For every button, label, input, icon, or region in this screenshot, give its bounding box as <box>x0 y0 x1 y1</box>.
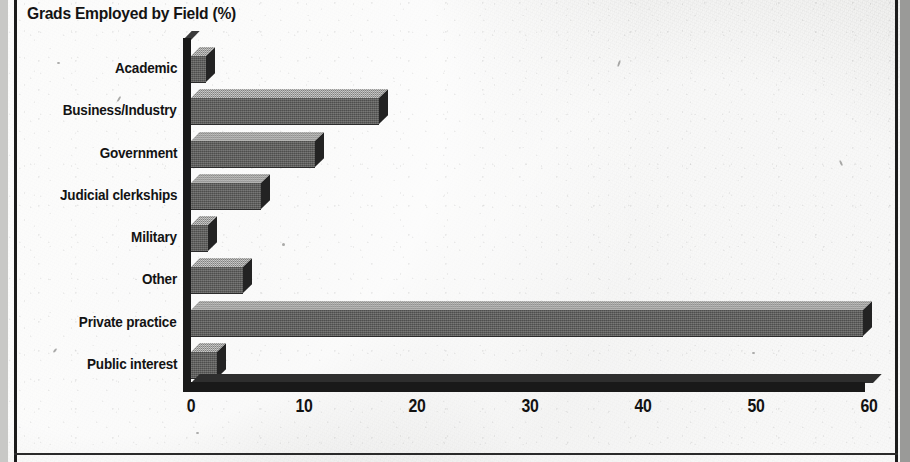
x-axis-line <box>183 382 865 392</box>
x-axis-tick-label: 60 <box>860 396 877 417</box>
y-axis-line <box>183 38 191 382</box>
x-axis-tick-label: 20 <box>408 396 425 417</box>
bar-front-face <box>191 310 863 337</box>
bar-top-face <box>191 89 387 98</box>
y-axis-label: Other <box>142 270 177 287</box>
y-axis-label: Government <box>99 144 177 161</box>
y-axis-label: Public interest <box>87 355 177 372</box>
y-axis-label: Judicial clerkships <box>60 186 177 203</box>
bar-front-face <box>191 267 243 294</box>
bar-side-face <box>243 259 252 294</box>
x-axis-tick-label: 0 <box>187 396 196 417</box>
x-axis-tick-label: 10 <box>295 396 312 417</box>
bar-front-face <box>191 183 261 210</box>
y-axis-label: Academic <box>115 59 177 76</box>
x-axis-tick-label: 30 <box>521 396 538 417</box>
x-axis-tick-label: 50 <box>747 396 764 417</box>
bar-front-face <box>191 56 206 83</box>
y-axis-label: Military <box>131 228 177 245</box>
bar-top-face <box>191 174 270 183</box>
chart-page: Grads Employed by Field (%) AcademicBusi… <box>0 0 910 462</box>
bar-front-face <box>191 141 315 168</box>
y-axis-label: Business/Industry <box>63 101 177 118</box>
x-axis-tick-label: 40 <box>634 396 651 417</box>
y-axis-label: Private practice <box>79 313 177 330</box>
bar-front-face <box>191 225 208 252</box>
plot-area: AcademicBusiness/IndustryGovernmentJudic… <box>0 0 910 462</box>
bar-front-face <box>191 98 379 125</box>
bar-top-face <box>191 132 324 141</box>
bar-top-face <box>191 301 872 310</box>
